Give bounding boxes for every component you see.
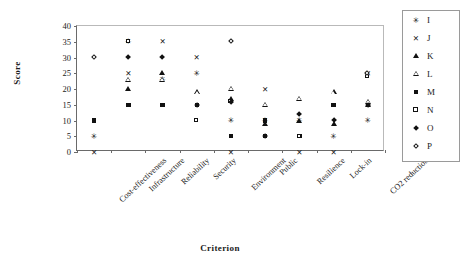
data-point-J-5: ✕ [262,86,269,93]
legend-item-O[interactable]: O [403,119,459,137]
x-category-label-6: Resilience [316,156,347,186]
x-axis-title: Criterion [150,243,290,253]
legend-marker-P-icon [403,137,427,155]
data-point-L-4 [228,86,234,91]
data-point-M-2 [160,103,164,107]
legend-label-O: O [427,123,451,133]
y-tick-label: 40 [49,22,71,31]
x-tick-mark [111,150,112,153]
legend-item-L[interactable]: L [403,65,459,83]
plot-area: 0510152025303540 ✳✳✳✳✳✳✳✳✳✕✕✕✕✕✕✕✕✕ [76,25,384,151]
legend-marker-I-icon: ✳ [403,11,427,29]
y-tick-label: 20 [49,85,71,94]
data-point-L-5 [262,102,268,107]
data-point-K-1 [125,86,131,91]
legend-item-K[interactable]: K [403,47,459,65]
data-point-I-8: ✳ [364,117,371,124]
legend-marker-K-icon [403,47,427,65]
data-point-N-1 [126,39,130,43]
legend-marker-triangle-up-icon [413,53,419,58]
legend-marker-square-open-icon [413,107,417,111]
x-category-label-3: Security [211,156,237,181]
legend-label-I: I [427,15,451,25]
x-tick-mark [145,150,146,153]
y-tick-label: 25 [49,69,71,78]
data-point-J-4: ✕ [228,149,235,156]
legend-marker-J-icon: ✕ [403,29,427,47]
x-tick-mark [77,150,78,153]
y-tick-mark [74,42,77,43]
legend-item-P[interactable]: P [403,137,459,155]
legend-marker-x-icon: ✕ [413,35,420,42]
legend-item-N[interactable]: N [403,101,459,119]
x-tick-mark [282,150,283,153]
data-point-M-0 [92,118,96,122]
data-point-M-1 [126,103,130,107]
legend-item-J[interactable]: ✕J [403,29,459,47]
legend-marker-L-icon [403,65,427,83]
data-point-I-0: ✳ [91,133,98,140]
y-tick-label: 0 [49,148,71,157]
data-point-K-6 [296,118,302,123]
legend-marker-asterisk-icon: ✳ [413,17,420,24]
legend-marker-diamond-open-icon [413,143,419,149]
legend-label-K: K [427,51,451,61]
legend-label-N: N [427,105,451,115]
data-point-M-5 [263,118,267,122]
data-point-I-7: ✳ [330,133,337,140]
y-tick-mark [74,26,77,27]
x-tick-mark [351,150,352,153]
legend-marker-diamond-icon [413,125,419,131]
legend-marker-triangle-up-open-icon [413,71,419,76]
legend-label-M: M [427,87,451,97]
legend-label-J: J [427,33,451,43]
data-point-I-4: ✳ [228,117,235,124]
chart-root: Score 0510152025303540 ✳✳✳✳✳✳✳✳✳✕✕✕✕✕✕✕✕… [0,0,471,273]
x-tick-mark [180,150,181,153]
data-point-N-3 [194,118,198,122]
legend-label-P: P [427,141,451,151]
legend-item-I[interactable]: ✳I [403,11,459,29]
data-point-L-6 [296,96,302,101]
data-point-N-6 [297,134,301,138]
data-point-L-7 [331,89,337,94]
x-tick-mark [385,150,386,153]
y-axis-title: Score [12,43,22,103]
y-tick-label: 35 [49,38,71,47]
data-point-J-3: ✕ [193,54,200,61]
y-tick-label: 10 [49,117,71,126]
data-point-L-3 [194,89,200,94]
y-tick-mark [74,73,77,74]
x-category-label-7: Lock-in [348,156,373,180]
x-tick-mark [248,150,249,153]
y-tick-label: 30 [49,54,71,63]
data-point-M-4 [229,134,233,138]
legend-label-L: L [427,69,451,79]
legend-marker-M-icon [403,83,427,101]
data-point-K-2 [159,70,165,75]
y-tick-mark [74,89,77,90]
y-tick-label: 15 [49,101,71,110]
x-tick-mark [317,150,318,153]
data-point-L-1 [125,77,131,82]
legend-marker-N-icon [403,101,427,119]
y-tick-mark [74,121,77,122]
data-point-J-2: ✕ [159,38,166,45]
y-tick-mark [74,105,77,106]
x-category-label-8: CO2 reduction [388,156,430,196]
legend: ✳I✕JKLMNOP [402,10,460,162]
y-tick-label: 5 [49,132,71,141]
data-point-L-2 [159,77,165,82]
legend-marker-O-icon [403,119,427,137]
data-point-J-0: ✕ [91,149,98,156]
data-point-J-6: ✕ [296,149,303,156]
y-tick-mark [74,136,77,137]
data-point-M-7 [331,103,335,107]
legend-item-M[interactable]: M [403,83,459,101]
data-point-J-7: ✕ [330,149,337,156]
data-point-I-3: ✳ [193,70,200,77]
x-tick-mark [214,150,215,153]
legend-marker-square-icon [414,90,418,94]
y-tick-mark [74,58,77,59]
